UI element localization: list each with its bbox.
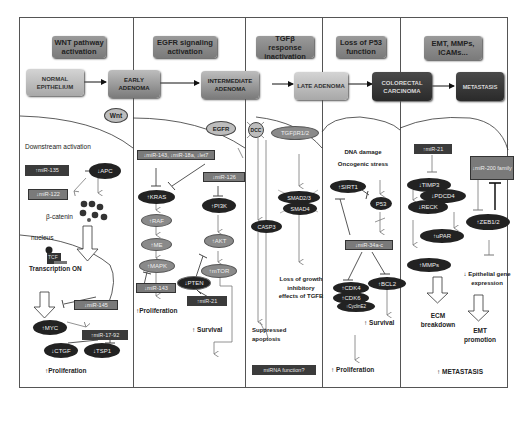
stage-late-adenoma: LATE ADENOMA [294,72,348,100]
tsp1-node: ↓TSP1 [84,343,120,358]
stage-colorectal-carcinoma: COLORECTAL CARCINOMA [372,72,432,101]
beta-catenin-dots [79,200,109,222]
mir-145-box: ↓miR-145 [74,300,118,310]
mir-135-box: ↑miR-135 [25,165,69,176]
wnt-proliferation-outcome: ↑Proliferation [45,366,87,375]
mir-143-box: ↓miR-143 [136,283,176,293]
stage-metastasis: METASTASIS [456,72,504,101]
emt-promotion-label: EMT promotion [460,326,500,344]
egfr-proliferation-outcome: ↑Proliferation [136,306,178,315]
stage-early-adenoma: EARLY ADENOMA [108,70,160,98]
mir-34a-c-box: ↓miR-34a-c [345,240,393,250]
pten-node: ↓PTEN [177,276,211,290]
bcl2-node: ↑BCL2 [368,277,406,290]
mir-21-box: ↑miR-21 [187,296,227,306]
pi3k-node: ↑PI3K [202,198,236,213]
transcription-on-label: Transcription ON [29,264,82,273]
dna-damage-label: DNA damage [330,148,396,157]
smad4-node: SMAD4 [283,202,317,215]
oncogenic-stress-label: Oncogenic stress [330,160,396,169]
mir-21-emt-box: ↑miR-21 [414,144,452,154]
mirna-function-box: miRNA function? [252,365,316,375]
downstream-activation-label: Downstream activation [25,143,91,150]
tcf-label: TCF [48,254,58,260]
mtor-node: ↑mTOR [201,264,237,278]
beta-catenin-label: β-catenin [46,213,73,220]
mir-200-family-box: ↓miR-200 family [470,156,514,180]
p53-survival-outcome: ↑ Survival [364,318,394,327]
p53-node: P53 [370,197,392,210]
suppressed-apoptosis-label: Suppressed apoptosis [252,326,292,343]
mir-122-box: ↓miR-122 [28,189,68,200]
cyclin-e2-node: ↑CyclinE2 [337,301,375,312]
stage-normal-epithelium: NORMAL EPITHELIUM [26,69,84,96]
epithelial-gene-expression-label: ↓ Epithelial gene expression [461,270,513,287]
dcc-node: DCC [248,122,264,138]
mmps-node: ↑MMPs [407,258,451,272]
egfr-receptor: EGFR [206,121,236,136]
zeb12-node: ↑ZEB1/2 [466,214,510,230]
reck-node: ↓RECK [408,200,448,214]
header-egfr-signaling: EGFR signaling activation [153,36,217,58]
loss-of-growth-inhibition-label: Loss of growth inhibitory effects of TGF… [278,275,324,301]
raf-node: ↑RAF [141,214,172,227]
header-tgfb-response: TGFβ response inactivation [256,36,314,58]
sirt1-node: ↑SIRT1 [330,180,366,193]
apc-node: ↓APC [89,163,121,179]
upar-node: ↑uPAR [420,229,464,243]
ecm-breakdown-label: ECM breakdown [416,311,460,329]
mir-143-18a-let7-box: ↓miR-143, ↓miR-18a, ↓let7 [137,150,215,160]
kras-node: ↑KRAS [138,190,175,204]
header-wnt-pathway: WNT pathway activation [52,36,106,58]
tgfbr-receptor: TGFβR1/2 [271,126,319,140]
egfr-survival-outcome: ↑ Survival [192,325,222,334]
nucleus-label: nucleus [31,234,53,241]
stage-intermediate-adenoma: INTERMEDIATE ADENOMA [201,71,259,99]
header-loss-p53: Loss of P53 function [336,36,386,58]
mir-126-box: ↓miR-126 [203,172,245,182]
mapk-node: ↑MAPK [139,259,175,273]
wnt-receptor: Wnt [104,108,128,123]
casp3-node: CASP3 [251,220,282,233]
ctgf-node: ↓CTGF [44,343,78,358]
p53-proliferation-outcome: ↑ Proliferation [331,365,374,374]
header-emt-mmps: EMT, MMPs, ICAMs... [424,36,482,60]
akt-node: ↑AKT [204,234,234,248]
myc-node: ↑MYC [33,320,67,335]
metastasis-outcome: ↑ METASTASIS [430,367,490,376]
me-node: ↑ME [141,238,172,251]
mir-17-92-box: ↑miR-17-92 [82,330,128,340]
